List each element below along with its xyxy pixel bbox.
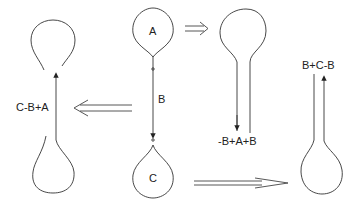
label-lower-right: B+C-B <box>302 59 335 71</box>
double-arrow-left <box>74 100 132 116</box>
center-figure: A B C <box>133 8 173 198</box>
double-arrow-bottom <box>194 178 288 188</box>
left-figure: C-B+A <box>16 20 75 193</box>
label-a: A <box>149 25 157 37</box>
lower-right-figure: B+C-B <box>301 59 342 194</box>
upper-right-figure: -B+A+B <box>218 9 266 147</box>
label-b: B <box>158 93 165 105</box>
double-arrow-top <box>185 22 208 35</box>
label-upper-right: -B+A+B <box>218 135 257 147</box>
homotopy-diagram: A B C C-B+A -B+A+B B+C-B <box>0 0 359 205</box>
label-left: C-B+A <box>16 101 49 113</box>
label-c: C <box>149 172 157 184</box>
